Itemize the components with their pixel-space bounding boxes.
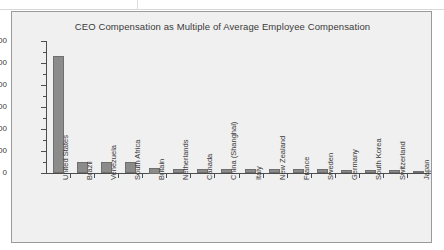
x-tick-label: New Zealand bbox=[278, 136, 287, 180]
x-tick-label: China (Shanghai) bbox=[229, 122, 238, 180]
y-tick-label: 400 bbox=[0, 80, 7, 89]
y-tick-minor bbox=[43, 140, 46, 141]
x-tick bbox=[214, 174, 215, 178]
x-tick-label: Brazil bbox=[85, 161, 94, 180]
x-tick-label: South Korea bbox=[374, 138, 383, 180]
y-tick-minor bbox=[43, 162, 46, 163]
x-tick-label: South Africa bbox=[133, 140, 142, 180]
x-tick-label: Germany bbox=[350, 149, 359, 180]
y-tick-label: 600 bbox=[0, 36, 7, 45]
y-tick-minor bbox=[43, 96, 46, 97]
y-tick-minor bbox=[43, 118, 46, 119]
x-tick bbox=[263, 174, 264, 178]
y-tick-label: 200 bbox=[0, 124, 7, 133]
x-tick-label: Venezuela bbox=[109, 145, 118, 180]
y-tick bbox=[41, 129, 46, 130]
chart-title: CEO Compensation as Multiple of Average … bbox=[12, 21, 433, 32]
x-tick bbox=[118, 174, 119, 178]
x-tick-label: Switzerland bbox=[398, 141, 407, 180]
x-tick bbox=[166, 174, 167, 178]
page-scan-tick bbox=[137, 0, 138, 10]
x-tick bbox=[94, 174, 95, 178]
x-tick bbox=[311, 174, 312, 178]
y-tick-label: 500 bbox=[0, 58, 7, 67]
y-tick bbox=[41, 85, 46, 86]
y-tick bbox=[41, 173, 46, 174]
x-tick-label: France bbox=[302, 157, 311, 180]
x-tick-label: Sweden bbox=[326, 153, 335, 180]
y-tick-minor bbox=[43, 52, 46, 53]
x-tick bbox=[407, 174, 408, 178]
y-tick-minor bbox=[43, 74, 46, 75]
page-scan-line bbox=[0, 9, 444, 10]
x-tick bbox=[142, 174, 143, 178]
y-tick bbox=[41, 151, 46, 152]
x-tick bbox=[287, 174, 288, 178]
x-tick-label: Britain bbox=[157, 159, 166, 180]
y-tick bbox=[41, 63, 46, 64]
x-tick-label: Italy bbox=[254, 166, 263, 180]
y-tick-label: 0 bbox=[0, 168, 7, 177]
y-tick bbox=[41, 107, 46, 108]
y-axis-line bbox=[46, 41, 47, 173]
chart-figure: CEO Compensation as Multiple of Average … bbox=[11, 11, 432, 243]
x-tick-label: Japan bbox=[422, 160, 431, 180]
x-tick bbox=[335, 174, 336, 178]
x-tick bbox=[383, 174, 384, 178]
x-tick bbox=[70, 174, 71, 178]
y-tick-label: 100 bbox=[0, 146, 7, 155]
x-tick bbox=[190, 174, 191, 178]
y-tick bbox=[41, 41, 46, 42]
x-tick bbox=[239, 174, 240, 178]
x-tick bbox=[359, 174, 360, 178]
y-tick-label: 300 bbox=[0, 102, 7, 111]
x-tick-label: Canada bbox=[205, 154, 214, 180]
x-tick-label: Netherlands bbox=[181, 140, 190, 180]
x-tick-label: United States bbox=[61, 135, 70, 180]
